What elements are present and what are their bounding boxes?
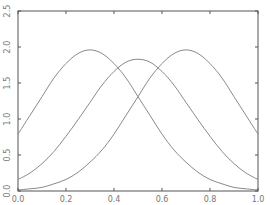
plot-area-border <box>18 11 258 191</box>
x-tick-label: 0.2 <box>60 195 73 204</box>
x-tick-label: 0.6 <box>156 195 169 204</box>
x-axis-ticks: 0.00.20.40.60.81.0 <box>12 11 265 204</box>
x-tick-label: 0.8 <box>204 195 217 204</box>
y-tick-label: 1.5 <box>3 77 12 90</box>
x-tick-label: 0.4 <box>108 195 121 204</box>
series-line-1 <box>18 50 258 190</box>
y-tick-label: 1.0 <box>3 113 12 126</box>
y-axis-ticks: 0.00.51.01.52.02.5 <box>3 5 258 198</box>
y-tick-label: 0.0 <box>3 185 12 198</box>
x-tick-label: 1.0 <box>252 195 265 204</box>
y-tick-label: 2.5 <box>3 5 12 18</box>
y-tick-label: 0.5 <box>3 149 12 162</box>
line-chart: 0.00.20.40.60.81.0 0.00.51.01.52.02.5 <box>0 0 270 205</box>
plot-frame <box>18 11 258 191</box>
x-tick-label: 0.0 <box>12 195 25 204</box>
y-tick-label: 2.0 <box>3 41 12 54</box>
series-line-3 <box>18 50 258 190</box>
plot-lines <box>18 50 258 190</box>
